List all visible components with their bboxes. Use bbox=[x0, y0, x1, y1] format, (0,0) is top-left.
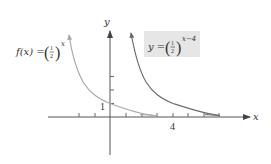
label-f: f(x) = ( 1 2 ) x bbox=[15, 40, 65, 62]
svg-text:x: x bbox=[61, 40, 65, 48]
svg-text:(: ( bbox=[44, 44, 49, 62]
y-ticks bbox=[110, 77, 114, 104]
x-tick-label-4: 4 bbox=[170, 121, 175, 132]
label-g: y = ( 1 2 ) x−4 bbox=[144, 31, 200, 57]
x-axis-label: x bbox=[253, 111, 259, 122]
y-axis-label: y bbox=[103, 16, 110, 27]
svg-text:): ) bbox=[55, 44, 60, 62]
svg-text:y =: y = bbox=[147, 41, 165, 52]
svg-text:1: 1 bbox=[50, 45, 53, 51]
svg-text:f(x) =: f(x) = bbox=[15, 46, 45, 57]
curve-f-tail bbox=[140, 115, 157, 116]
svg-text:2: 2 bbox=[171, 48, 174, 54]
curve-f bbox=[69, 35, 153, 115]
svg-text:(: ( bbox=[165, 39, 170, 57]
svg-text:): ) bbox=[176, 39, 181, 57]
exponential-graph: x y 1 4 f(x) = ( 1 2 ) x y = ( 1 2 ) x−4 bbox=[0, 0, 271, 164]
y-tick-label-1: 1 bbox=[100, 101, 105, 112]
svg-text:x−4: x−4 bbox=[182, 35, 196, 43]
svg-text:1: 1 bbox=[171, 40, 174, 46]
svg-text:2: 2 bbox=[50, 53, 53, 59]
